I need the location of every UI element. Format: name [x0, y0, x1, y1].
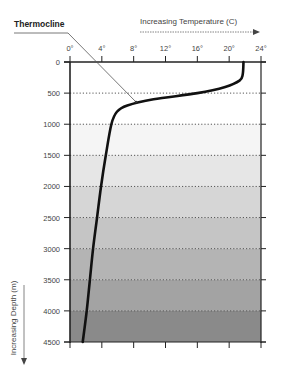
depth-band [70, 124, 261, 155]
x-tick-label: 20° [223, 44, 234, 53]
x-tick-label: 24° [255, 44, 266, 53]
y-tick-label: 1500 [43, 151, 60, 160]
depth-band [70, 218, 261, 249]
x-tick-label: 12° [160, 44, 171, 53]
arrow-right-icon [253, 29, 260, 35]
thermocline-pointer-dot [135, 101, 138, 104]
x-tick-label: 8° [130, 44, 137, 53]
x-axis-label: Increasing Temperature (C) [140, 17, 238, 26]
depth-band [70, 62, 261, 124]
y-axis-label: Increasing Depth (m) [9, 280, 18, 355]
y-tick-label: 2500 [43, 214, 60, 223]
y-tick-label: 4500 [43, 338, 60, 347]
y-tick-label: 3500 [43, 276, 60, 285]
y-tick-label: 0 [56, 58, 60, 67]
depth-band [70, 155, 261, 186]
depth-band [70, 311, 261, 342]
y-tick-label: 2000 [43, 182, 60, 191]
depth-band [70, 280, 261, 311]
depth-band [70, 249, 261, 280]
thermocline-label: Thermocline [14, 19, 65, 29]
x-tick-label: 0° [66, 44, 73, 53]
x-tick-label: 16° [192, 44, 203, 53]
x-tick-label: 4° [98, 44, 105, 53]
y-tick-label: 1000 [43, 120, 60, 129]
y-tick-label: 500 [47, 89, 60, 98]
thermocline-chart: 0°4°8°12°16°20°24°0500100015002000250030… [0, 0, 282, 373]
y-tick-label: 3000 [43, 245, 60, 254]
y-tick-label: 4000 [43, 307, 60, 316]
arrow-down-icon [21, 358, 27, 365]
